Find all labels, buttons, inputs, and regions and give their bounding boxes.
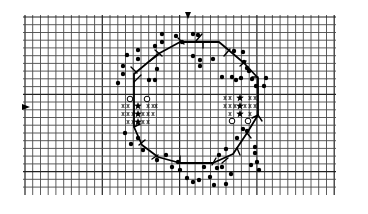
star-icon [236,94,244,101]
knot-dot-icon [198,64,202,68]
star-icon [236,110,244,117]
center-column-arrow-icon [185,12,191,19]
leaf-tick [258,115,262,121]
knot-dot-icon [241,127,245,131]
knot-dot-icon [234,78,238,82]
knot-dot-icon [136,136,140,140]
knot-dot-icon [224,147,228,151]
stitch-glyph-icon [146,112,150,115]
knot-dot-icon [262,84,266,88]
hollow-circle-icon [127,96,133,102]
knot-dot-icon [160,40,164,44]
knot-dot-icon [232,49,236,53]
knot-dot-icon [245,129,249,133]
knot-dot-icon [153,78,157,82]
knot-dot-icon [164,153,168,157]
center-row-arrow-icon [22,104,30,110]
stitch-glyph-icon [151,104,155,107]
knot-dot-icon [253,151,257,155]
knot-dot-icon [136,48,140,52]
knot-dot-icon [170,165,174,169]
knot-dot-icon [249,163,253,167]
stitch-glyph-icon [121,104,125,107]
stitch-glyph-icon [248,104,252,107]
knot-dot-icon [153,44,157,48]
knot-dot-icon [129,142,133,146]
cross-stitch-chart [0,0,368,214]
knot-dot-icon [250,77,254,81]
hollow-circle-icon [245,118,251,124]
knot-dot-icon [217,153,221,157]
hollow-circle-icon [229,118,235,124]
stitch-glyph-icon [228,112,232,115]
knot-dot-icon [123,131,127,135]
knot-dot-icon [147,78,151,82]
knot-dot-icon [174,34,178,38]
knot-dot-icon [224,182,228,186]
knot-dot-icon [155,67,159,71]
stitch-glyph-icon [146,104,150,107]
wreath-stem-line [134,42,258,163]
stitch-glyph-icon [126,112,130,115]
knot-dot-icon [141,148,145,152]
knot-dot-icon [136,57,140,61]
knot-dot-icon [264,76,268,80]
stitch-glyph-icon [228,96,232,99]
wreath-outline-path [134,42,258,163]
knot-dot-icon [208,175,212,179]
knot-dot-icon [215,166,219,170]
knot-dot-icon [196,33,200,37]
knot-dot-icon [212,183,216,187]
stitch-glyph-icon [243,104,247,107]
knot-dot-icon [241,50,245,54]
stitch-glyph-icon [126,104,130,107]
stitch-glyph-icon [126,120,130,123]
knot-dot-icon [220,165,224,169]
knot-dot-icon [235,136,239,140]
stitch-glyph-icon [146,120,150,123]
leaf-tick [131,67,137,73]
knot-dot-icon [191,54,195,58]
knot-dot-icon [160,32,164,36]
knot-dot-icon [230,75,234,79]
knot-dot-icon [176,160,180,164]
knot-dot-icon [202,165,206,169]
knot-dot-icon [242,60,246,64]
knot-dot-icon [257,168,261,172]
knot-dot-icon [185,176,189,180]
stitch-glyph-icon [228,104,232,107]
knot-dot-icon [121,72,125,76]
knot-dot-icon [191,180,195,184]
knot-dot-icon [191,32,195,36]
knot-dot-icon [254,84,258,88]
stitch-glyph-icon [248,112,252,115]
leaf-tick [224,49,230,56]
knot-dot-icon [178,168,182,172]
knot-dot-icon [116,81,120,85]
center-markers [22,12,191,110]
stitch-glyph-icon [248,96,252,99]
knot-dot-icon [125,53,129,57]
stitch-glyph-icon [151,112,155,115]
stitch-glyph-icon [141,120,145,123]
star-icon [236,102,244,109]
knot-dot-icon [220,75,224,79]
knot-dot-icon [253,145,257,149]
knot-dot-icon [121,64,125,68]
knot-dot-icon [198,58,202,62]
knot-dot-icon [197,178,201,182]
knot-dot-icon [211,57,215,61]
stitch-glyph-icon [141,112,145,115]
knot-dot-icon [155,158,159,162]
knot-dot-icon [247,69,251,73]
stitch-glyph-icon [154,104,158,107]
knot-dot-icon [255,160,259,164]
hollow-circle-icon [144,96,150,102]
stitch-glyph-icon [121,112,125,115]
knot-dot-icon [229,172,233,176]
knot-dot-icon [180,40,184,44]
leaf-tick [237,148,240,155]
knot-dot-icon [239,76,243,80]
